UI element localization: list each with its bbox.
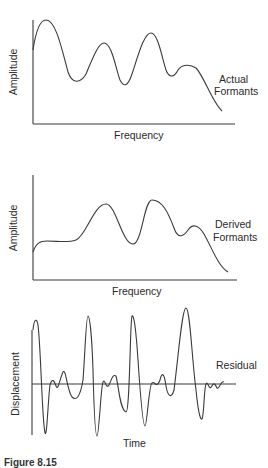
panel3-x-label: Time (123, 437, 146, 449)
residual-curve (33, 308, 224, 436)
panel3-series-label: Residual (216, 359, 257, 371)
panel2-y-label: Amplitude (7, 205, 19, 252)
panel2-series-label-line2: Formants (213, 231, 257, 243)
panel-derived-formants (33, 175, 237, 280)
panel1-series-label-line2: Formants (214, 85, 258, 97)
panel1-y-label: Amplitude (7, 49, 19, 96)
panel2-series-label-line1: Derived (215, 218, 251, 230)
panel-actual-formants (33, 20, 235, 124)
panel3-y-label: Displacement (9, 352, 21, 416)
derived-formants-curve (33, 200, 228, 272)
panel1-x-label: Frequency (114, 129, 164, 141)
panel2-x-label: Frequency (112, 285, 162, 297)
panel1-series-label-line1: Actual (219, 73, 248, 85)
actual-formants-curve (33, 20, 222, 111)
panel-residual (32, 308, 236, 436)
figure-caption: Figure 8.15 (4, 457, 57, 468)
